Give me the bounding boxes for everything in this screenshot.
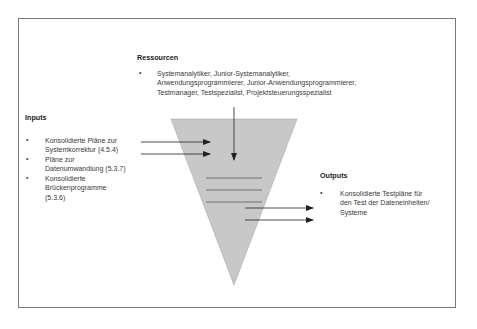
inputs-item-2: Pläne zur Datenumwandlung (5.3.7) — [45, 155, 126, 174]
outputs-line: den Test der Dateneinheiten/ — [340, 198, 429, 207]
inputs-item-1: Konsolidierte Pläne zur Systemkorrektur … — [45, 136, 118, 155]
outputs-heading: Outputs — [320, 171, 348, 180]
inputs-item-3: Konsolidierte Brückenprogramme (5.3.6) — [45, 174, 106, 202]
inputs-line: Systemkorrektur (4.5.4) — [45, 145, 118, 154]
inputs-line: Brückenprogramme — [45, 183, 106, 192]
inputs-line: Konsolidierte — [45, 174, 106, 183]
inputs-bullet: • — [26, 174, 28, 181]
outputs-list: Konsolidierte Testpläne für den Test der… — [340, 189, 429, 217]
inputs-line: Konsolidierte Pläne zur — [45, 136, 118, 145]
ressourcen-line: Systemanalytiker, Junior-Systemanalytike… — [157, 69, 356, 78]
outputs-item: Konsolidierte Testpläne für den Test der… — [340, 189, 429, 217]
ressourcen-heading: Ressourcen — [137, 53, 178, 62]
inputs-bullet: • — [26, 136, 28, 143]
inputs-bullet: • — [26, 155, 28, 162]
ressourcen-item: Systemanalytiker, Junior-Systemanalytike… — [157, 69, 356, 97]
inputs-heading: Inputs — [25, 113, 47, 122]
inputs-line: (5.3.6) — [45, 193, 106, 202]
outputs-line: Systeme — [340, 208, 429, 217]
ressourcen-list: Systemanalytiker, Junior-Systemanalytike… — [157, 69, 356, 97]
outputs-line: Konsolidierte Testpläne für — [340, 189, 429, 198]
ressourcen-line: Anwendungsprogrammierer, Junior-Anwendun… — [157, 78, 356, 87]
inputs-line: Datenumwandlung (5.3.7) — [45, 164, 126, 173]
outputs-bullet: • — [320, 189, 322, 196]
inputs-line: Pläne zur — [45, 155, 126, 164]
ressourcen-bullet: • — [139, 69, 141, 76]
ressourcen-line: Testmanager, Testspezialist, Projektsteu… — [157, 88, 356, 97]
